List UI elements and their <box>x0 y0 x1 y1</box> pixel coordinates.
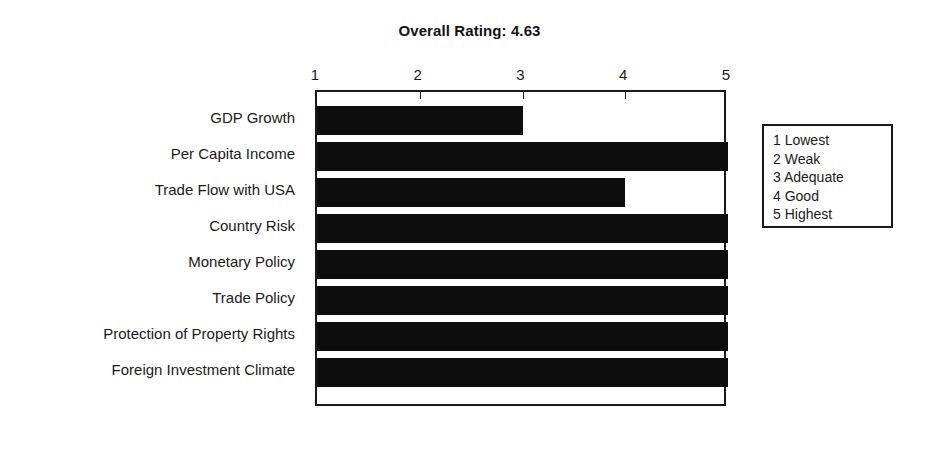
plot-area <box>315 90 726 406</box>
bar <box>317 358 728 387</box>
legend-entry: 5 Highest <box>773 205 891 224</box>
bar <box>317 214 728 243</box>
bars-layer <box>317 92 724 404</box>
legend: 1 Lowest2 Weak3 Adequate4 Good5 Highest <box>762 124 893 228</box>
x-axis-tick-label-4: 4 <box>619 66 627 83</box>
bar-row <box>317 286 724 315</box>
legend-entry: 4 Good <box>773 187 891 206</box>
bar <box>317 142 728 171</box>
bar <box>317 322 728 351</box>
legend-entry: 3 Adequate <box>773 168 891 187</box>
category-label: Trade Policy <box>212 290 295 306</box>
category-label: Trade Flow with USA <box>155 182 295 198</box>
bar-row <box>317 106 724 135</box>
bar-row <box>317 178 724 207</box>
chart-title: Overall Rating: 4.63 <box>0 22 939 39</box>
bar-row <box>317 142 724 171</box>
category-label: GDP Growth <box>210 110 295 126</box>
bar <box>317 106 523 135</box>
bar <box>317 250 728 279</box>
x-axis-tick-label-1: 1 <box>311 66 319 83</box>
category-label: Monetary Policy <box>188 254 295 270</box>
x-axis-tick-label-3: 3 <box>516 66 524 83</box>
x-axis-tick-label-2: 2 <box>414 66 422 83</box>
category-label: Country Risk <box>209 218 295 234</box>
legend-entry: 2 Weak <box>773 150 891 169</box>
bar-row <box>317 322 724 351</box>
y-axis-category-labels: GDP GrowthPer Capita IncomeTrade Flow wi… <box>0 90 305 406</box>
category-label: Per Capita Income <box>171 146 295 162</box>
bar <box>317 178 625 207</box>
bar-row <box>317 214 724 243</box>
bar <box>317 286 728 315</box>
bar-row <box>317 358 724 387</box>
category-label: Protection of Property Rights <box>103 326 295 342</box>
x-axis-tick-label-5: 5 <box>722 66 730 83</box>
category-label: Foreign Investment Climate <box>112 362 295 378</box>
bar-row <box>317 250 724 279</box>
legend-entry: 1 Lowest <box>773 131 891 150</box>
x-axis: 12345 <box>315 66 726 88</box>
